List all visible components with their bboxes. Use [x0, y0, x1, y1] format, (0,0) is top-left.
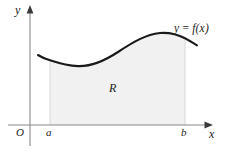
region-label-r: R: [109, 82, 116, 94]
upper-bound-label-b: b: [181, 127, 187, 138]
lower-bound-label-a: a: [46, 127, 52, 138]
y-axis-label: y: [15, 4, 20, 16]
y-axis-arrowhead: [27, 5, 34, 14]
area-under-curve-figure: y x O a b R y = f(x): [0, 0, 227, 153]
function-label-argument: (x): [196, 22, 209, 34]
origin-label: O: [16, 127, 24, 138]
function-label-equals: =: [179, 22, 192, 34]
shaded-region-fill: [50, 33, 185, 125]
function-label: y = f(x): [174, 23, 209, 35]
x-axis-label: x: [209, 128, 214, 140]
